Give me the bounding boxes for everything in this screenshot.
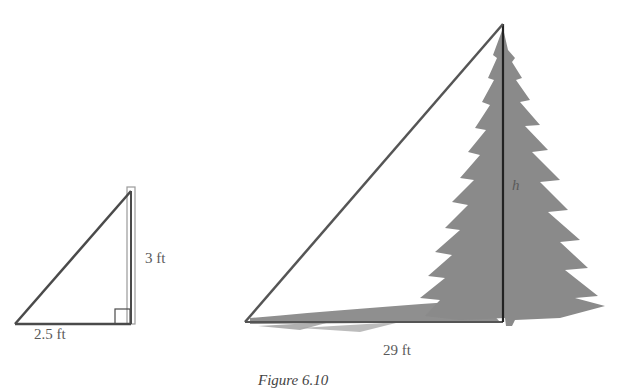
large-base-label: 29 ft (383, 342, 411, 359)
small-triangle (15, 187, 135, 324)
small-height-label: 3 ft (145, 250, 165, 267)
small-base-label: 2.5 ft (34, 326, 66, 343)
figure-caption: Figure 6.10 (258, 372, 328, 389)
tree-height-label: h (512, 177, 520, 194)
right-angle-marker (115, 309, 130, 324)
